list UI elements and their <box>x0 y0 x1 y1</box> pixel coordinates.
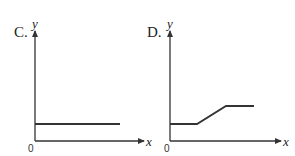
graphs-canvas <box>0 0 295 156</box>
graph-line-d <box>170 106 254 124</box>
